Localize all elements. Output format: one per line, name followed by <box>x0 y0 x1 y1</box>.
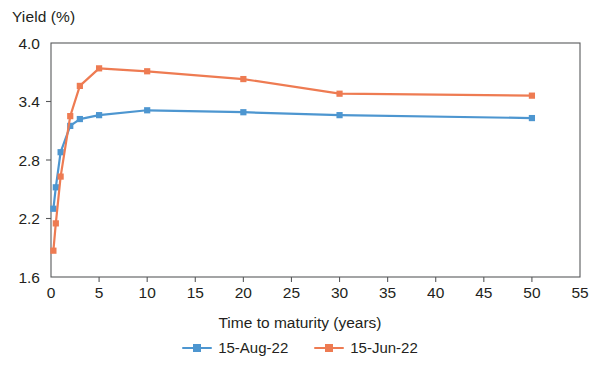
x-tick-label: 15 <box>187 284 204 300</box>
y-tick-label: 2.2 <box>18 210 40 227</box>
x-tick-label: 45 <box>475 284 492 300</box>
x-tick-label: 50 <box>523 284 541 300</box>
x-axis-title: Time to maturity (years) <box>0 314 600 332</box>
legend-label-series-1: 15-Jun-22 <box>350 339 418 356</box>
legend-item-series-0[interactable]: 15-Aug-22 <box>182 339 288 356</box>
plot-area: 1.62.22.83.44.00510152025303540455055 <box>0 0 600 300</box>
chart-canvas: 1.62.22.83.44.00510152025303540455055 <box>0 0 600 300</box>
legend-swatch-series-1 <box>314 342 344 354</box>
x-tick-label: 55 <box>571 284 588 300</box>
y-tick-label: 4.0 <box>18 35 40 52</box>
y-tick-label: 3.4 <box>18 93 40 110</box>
yield-curve-chart: Yield (%) 1.62.22.83.44.0051015202530354… <box>0 0 600 365</box>
legend-swatch-series-0 <box>182 342 212 354</box>
series-0 <box>50 107 535 212</box>
x-tick-label: 30 <box>331 284 349 300</box>
x-tick-label: 25 <box>283 284 300 300</box>
y-tick-label: 1.6 <box>18 269 40 286</box>
x-tick-label: 10 <box>139 284 157 300</box>
chart-legend: 15-Aug-22 15-Jun-22 <box>0 339 600 356</box>
x-tick-label: 0 <box>47 284 56 300</box>
series-1 <box>50 65 535 254</box>
x-tick-label: 5 <box>95 284 104 300</box>
x-tick-label: 40 <box>427 284 445 300</box>
legend-item-series-1[interactable]: 15-Jun-22 <box>314 339 418 356</box>
legend-label-series-0: 15-Aug-22 <box>218 339 288 356</box>
x-tick-label: 35 <box>379 284 396 300</box>
x-tick-label: 20 <box>235 284 253 300</box>
y-tick-label: 2.8 <box>18 152 40 169</box>
